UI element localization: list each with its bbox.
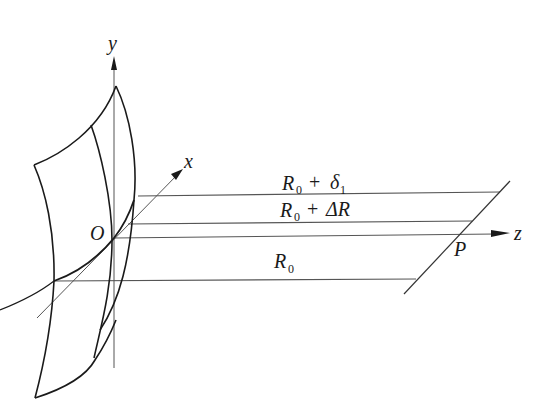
svg-text:R: R xyxy=(281,172,294,194)
svg-text:ΔR: ΔR xyxy=(325,198,350,220)
label-r0: R 0 xyxy=(273,250,294,276)
y-axis-arrow-icon xyxy=(111,56,117,70)
svg-text:0: 0 xyxy=(288,262,294,276)
label-r0-plus-deltaR: R 0 + ΔR xyxy=(279,198,350,224)
x-axis-label: x xyxy=(183,150,193,172)
svg-text:0: 0 xyxy=(296,183,302,197)
svg-text:R: R xyxy=(279,199,292,221)
x-axis-arrow-icon xyxy=(171,169,183,180)
svg-text:δ: δ xyxy=(330,171,340,193)
z-axis-label: z xyxy=(513,222,522,244)
svg-text:0: 0 xyxy=(294,210,300,224)
y-axis-label: y xyxy=(106,32,117,55)
point-p-label: P xyxy=(453,238,466,260)
z-axis-arrow-icon xyxy=(491,230,510,237)
wavefront-diagram: y x z O P R 0 + δ 1 R 0 + ΔR R 0 xyxy=(0,0,552,412)
svg-text:+: + xyxy=(304,171,325,193)
svg-text:R: R xyxy=(273,250,286,272)
svg-text:+: + xyxy=(302,198,323,220)
z-axis xyxy=(114,230,510,238)
wavefront-surface xyxy=(0,86,135,398)
label-r0-plus-delta1: R 0 + δ 1 xyxy=(281,171,346,197)
svg-text:1: 1 xyxy=(340,183,346,197)
origin-label: O xyxy=(90,222,104,244)
